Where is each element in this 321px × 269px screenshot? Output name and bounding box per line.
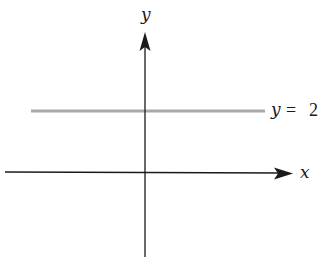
x-axis-label: x — [300, 162, 310, 182]
coordinate-plane: y x y = 2 — [0, 0, 321, 269]
line-label-val: 2 — [309, 100, 318, 120]
y-axis-label: y — [140, 4, 151, 24]
x-axis — [5, 172, 282, 173]
line-label-eq: = — [286, 100, 296, 120]
line-label-var: y — [270, 99, 281, 119]
